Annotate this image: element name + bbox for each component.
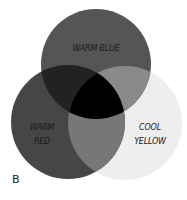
panel-label: B bbox=[12, 173, 20, 186]
label-warm-red-line1: WARM bbox=[30, 123, 55, 132]
venn-diagram: WARM BLUE WARM RED COOL YELLOW B bbox=[0, 0, 187, 200]
label-cool-yellow-line2: YELLOW bbox=[134, 137, 167, 146]
label-cool-yellow-line1: COOL bbox=[139, 123, 161, 132]
label-warm-red-line2: RED bbox=[34, 137, 50, 146]
label-warm-blue: WARM BLUE bbox=[72, 44, 120, 53]
